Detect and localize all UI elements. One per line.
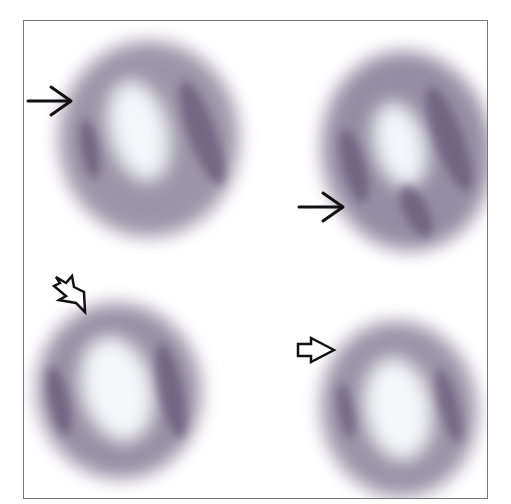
scintigraphy-image [24,21,488,499]
figure-frame [23,20,488,499]
open-arrow-icon [298,338,334,362]
open-arrow-icon [54,276,85,312]
panel-bottom-right [310,311,488,499]
